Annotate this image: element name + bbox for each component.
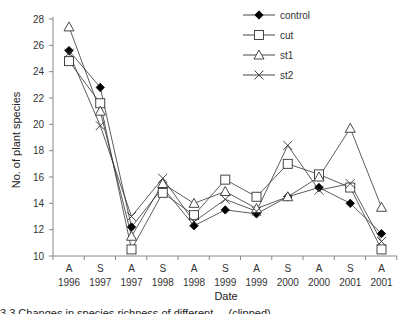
x-cross-marker-icon xyxy=(283,141,292,150)
x-tick-season: A xyxy=(128,263,135,274)
y-tick-label: 20 xyxy=(33,119,45,130)
x-tick-year: 1999 xyxy=(214,277,237,288)
x-tick-year: 1997 xyxy=(89,277,112,288)
legend-label: control xyxy=(280,10,310,21)
x-tick-season: S xyxy=(159,263,166,274)
x-tick-year: 1996 xyxy=(58,277,81,288)
y-tick-label: 14 xyxy=(33,198,45,209)
x-tick-season: A xyxy=(378,263,385,274)
y-tick-label: 22 xyxy=(33,93,45,104)
y-tick-label: 28 xyxy=(33,14,45,25)
series-line xyxy=(69,27,382,236)
legend-item-cut: cut xyxy=(243,30,294,41)
x-tick-year: 2000 xyxy=(277,277,300,288)
open-square-marker-icon xyxy=(283,159,292,168)
y-axis-title: No. of plant species xyxy=(10,91,22,188)
x-tick-year: 2001 xyxy=(339,277,362,288)
x-tick-year: 2001 xyxy=(370,277,393,288)
open-square-marker-icon xyxy=(346,183,355,192)
x-axis-title: Date xyxy=(214,290,237,302)
legend-item-st1: st1 xyxy=(243,50,294,61)
x-cross-marker-icon xyxy=(127,212,136,221)
y-tick-label: 24 xyxy=(33,66,45,77)
open-square-marker-icon xyxy=(221,175,230,184)
open-triangle-marker-icon xyxy=(345,123,355,132)
line-chart: 10121416182022242628 A1996S1997A1997S199… xyxy=(0,0,410,314)
x-tick-season: S xyxy=(97,263,104,274)
x-tick-year: 1997 xyxy=(120,277,143,288)
x-cross-marker-icon xyxy=(221,195,230,204)
series-layer xyxy=(64,22,387,254)
y-tick-label: 12 xyxy=(33,224,45,235)
y-axis: 10121416182022242628 xyxy=(33,14,53,262)
x-tick-season: A xyxy=(66,263,73,274)
filled-diamond-marker-icon xyxy=(190,222,198,230)
y-tick-label: 18 xyxy=(33,145,45,156)
x-tick-season: A xyxy=(253,263,260,274)
open-triangle-marker-icon xyxy=(220,186,230,195)
filled-diamond-marker-icon xyxy=(255,11,263,19)
legend-label: st1 xyxy=(280,50,294,61)
open-triangle-marker-icon xyxy=(254,50,264,59)
legend-label: cut xyxy=(280,30,294,41)
x-tick-year: 1998 xyxy=(152,277,175,288)
x-tick-year: 1999 xyxy=(245,277,268,288)
filled-diamond-marker-icon xyxy=(221,206,229,214)
series-markers-cut xyxy=(65,57,387,254)
series-cut xyxy=(69,61,382,249)
y-tick-label: 26 xyxy=(33,40,45,51)
open-square-marker-icon xyxy=(255,31,264,40)
y-tick-label: 16 xyxy=(33,172,45,183)
x-tick-season: S xyxy=(222,263,229,274)
open-square-marker-icon xyxy=(252,192,261,201)
x-tick-year: 2000 xyxy=(308,277,331,288)
legend-item-control: control xyxy=(243,10,310,21)
open-triangle-marker-icon xyxy=(377,202,387,211)
series-st1 xyxy=(69,27,382,236)
open-square-marker-icon xyxy=(65,57,74,66)
open-triangle-marker-icon xyxy=(189,198,199,207)
x-cross-marker-icon xyxy=(96,121,105,130)
open-square-marker-icon xyxy=(127,245,136,254)
figure-caption: 3.3 Changes in species richness of diffe… xyxy=(0,306,410,314)
open-square-marker-icon xyxy=(377,245,386,254)
x-tick-year: 1998 xyxy=(183,277,206,288)
legend-label: st2 xyxy=(280,70,294,81)
legend-item-st2: st2 xyxy=(243,70,294,81)
open-triangle-marker-icon xyxy=(64,22,74,31)
x-tick-season: A xyxy=(316,263,323,274)
x-tick-season: S xyxy=(347,263,354,274)
legend: controlcutst1st2 xyxy=(243,10,310,81)
y-tick-label: 10 xyxy=(33,251,45,262)
x-tick-season: S xyxy=(284,263,291,274)
open-square-marker-icon xyxy=(158,188,167,197)
x-tick-season: A xyxy=(191,263,198,274)
series-markers-control xyxy=(65,46,386,237)
x-axis: A1996S1997A1997S1998A1998S1999A1999S2000… xyxy=(53,256,397,288)
series-line xyxy=(69,61,382,249)
